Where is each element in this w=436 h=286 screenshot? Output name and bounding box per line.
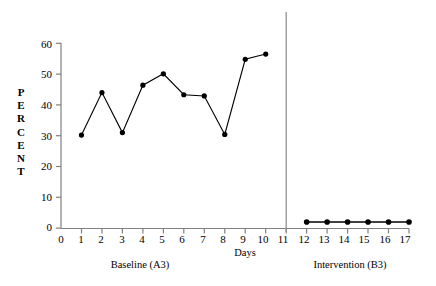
data-point xyxy=(79,132,84,137)
data-point xyxy=(243,57,248,62)
data-point xyxy=(324,219,330,225)
data-point xyxy=(304,219,310,225)
chart-figure: P E R C E N T 60 50 40 30 20 10 0 0 1 2 … xyxy=(0,0,436,286)
y-axis-ticks xyxy=(56,43,61,228)
baseline-series-line xyxy=(81,54,265,135)
data-point xyxy=(181,92,186,97)
plot-area xyxy=(0,0,436,286)
data-point xyxy=(365,219,371,225)
x-axis-ticks xyxy=(82,229,410,234)
data-point xyxy=(386,219,392,225)
data-point xyxy=(202,93,207,98)
data-point xyxy=(161,71,166,76)
data-point xyxy=(99,90,104,95)
data-point xyxy=(263,51,268,56)
data-point xyxy=(120,130,125,135)
data-point xyxy=(222,132,227,137)
data-point xyxy=(406,219,412,225)
baseline-series-markers xyxy=(79,51,268,137)
data-point xyxy=(140,83,145,88)
data-point xyxy=(345,219,351,225)
